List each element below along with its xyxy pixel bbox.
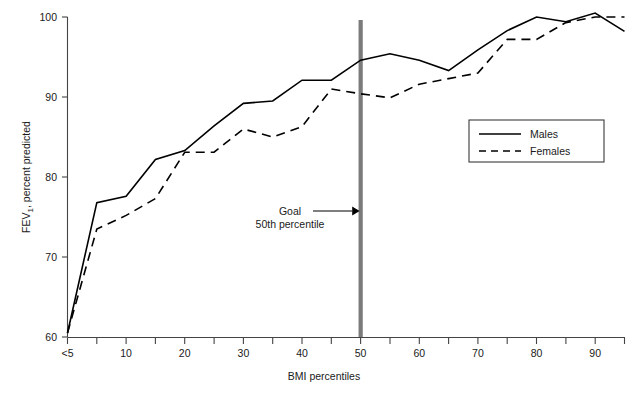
x-tick-label-50: 50	[355, 347, 367, 359]
y-axis-title-rest: , percent predicted	[20, 121, 32, 208]
y-tick-label-100: 100	[39, 11, 57, 23]
legend-label-females: Females	[530, 145, 570, 157]
x-tick-label-40: 40	[296, 347, 308, 359]
chart-background	[0, 0, 639, 400]
x-tick-label-70: 70	[472, 347, 484, 359]
y-tick-label-70: 70	[45, 251, 57, 263]
legend: Males Females	[469, 120, 604, 162]
chart-figure: 100 90 80 70 60 FEV1, percent predicted	[0, 0, 639, 400]
x-tick-label-60: 60	[413, 347, 425, 359]
y-tick-label-60: 60	[45, 331, 57, 343]
x-tick-label-90: 90	[589, 347, 601, 359]
legend-label-males: Males	[530, 128, 558, 140]
y-tick-label-80: 80	[45, 171, 57, 183]
x-tick-label-20: 20	[179, 347, 191, 359]
y-tick-label-90: 90	[45, 91, 57, 103]
x-tick-label-10: 10	[120, 347, 132, 359]
x-axis-title: BMI percentiles	[288, 370, 360, 382]
x-tick-label-0: <5	[62, 347, 74, 359]
goal-annotation-line2: 50th percentile	[256, 218, 325, 230]
fev1-bmi-percentile-line-chart: 100 90 80 70 60 FEV1, percent predicted	[0, 0, 639, 400]
y-axis-title-base: FEV	[20, 213, 32, 233]
x-tick-label-30: 30	[238, 347, 250, 359]
goal-annotation-line1: Goal	[279, 205, 301, 217]
x-tick-label-80: 80	[531, 347, 543, 359]
